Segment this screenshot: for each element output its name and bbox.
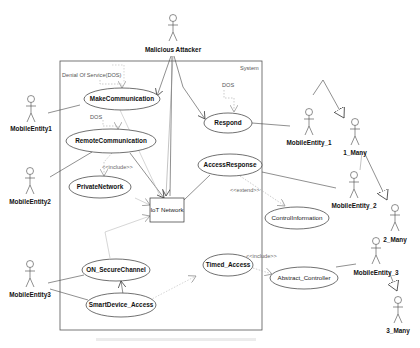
actor-mobile-entity1[interactable]: MobileEntity1 <box>10 96 52 134</box>
svg-text:3_Many: 3_Many <box>386 327 410 335</box>
svg-text:IoT Network: IoT Network <box>150 206 184 213</box>
actor-malicious-attacker[interactable]: Malicious Attacker <box>145 15 202 54</box>
svg-text:2_Many: 2_Many <box>383 236 407 244</box>
include-stereotype-private: <<include>> <box>102 164 133 170</box>
svg-text:MobileEntity2: MobileEntity2 <box>9 198 51 206</box>
use-case-timed-access[interactable]: Timed_Access <box>203 254 253 276</box>
actor-mobile-entity-2[interactable]: MobileEntity_2 <box>331 172 377 211</box>
svg-text:Abstract_Controller: Abstract_Controller <box>278 274 331 281</box>
svg-text:MakeCommunication: MakeCommunication <box>90 95 154 102</box>
system-label: System <box>240 65 259 71</box>
actor-1-many[interactable]: 1_Many <box>343 119 367 158</box>
svg-text:ON_SecureChannel: ON_SecureChannel <box>86 266 146 273</box>
use-case-make-communication[interactable]: MakeCommunication <box>84 88 160 110</box>
use-case-abstract-controller[interactable]: Abstract_Controller <box>270 267 338 289</box>
use-case-private-network[interactable]: PrivateNetwork <box>69 176 131 198</box>
use-case-on-secure-channel[interactable]: ON_SecureChannel <box>82 259 150 281</box>
include-stereotype-abstract: <<include>> <box>246 253 277 259</box>
actor-3-many[interactable]: 3_Many <box>386 297 410 336</box>
svg-text:Malicious Attacker: Malicious Attacker <box>145 46 202 53</box>
svg-text:SmartDevice_Access: SmartDevice_Access <box>89 301 154 308</box>
svg-text:ControlInformation: ControlInformation <box>272 214 323 221</box>
dos-group-note: Denial Of Service(DOS) <box>62 72 122 78</box>
svg-text:PrivateNetwork: PrivateNetwork <box>77 183 124 190</box>
actor-mobile-entity-3[interactable]: MobileEntity_3 <box>353 238 399 278</box>
svg-text:RemoteCommunication: RemoteCommunication <box>75 137 147 144</box>
dos-respond-note: DOS <box>222 82 234 88</box>
svg-text:MobileEntity1: MobileEntity1 <box>10 125 52 133</box>
use-case-control-information[interactable]: ControlInformation <box>265 207 329 229</box>
svg-text:MobileEntity3: MobileEntity3 <box>9 291 51 299</box>
svg-text:Timed_Access: Timed_Access <box>206 261 251 268</box>
actor-2-many[interactable]: 2_Many <box>383 205 407 245</box>
use-case-diagram: System Denial Of Service(DOS) DOS DOS <<… <box>0 0 420 348</box>
actor-mobile-entity-1[interactable]: MobileEntity_1 <box>286 109 332 148</box>
svg-text:AccessResponse: AccessResponse <box>204 161 257 169</box>
use-case-respond[interactable]: Respond <box>204 113 252 133</box>
use-case-smart-device-access[interactable]: SmartDevice_Access <box>86 293 156 317</box>
iot-network-box[interactable]: IoT Network <box>150 198 185 222</box>
use-case-remote-communication[interactable]: RemoteCommunication <box>66 129 156 153</box>
use-case-access-response[interactable]: AccessResponse <box>198 154 262 176</box>
svg-text:MobileEntity_3: MobileEntity_3 <box>353 269 399 277</box>
svg-text:1_Many: 1_Many <box>343 149 367 157</box>
svg-text:MobileEntity_1: MobileEntity_1 <box>286 139 332 147</box>
faint-caption <box>96 338 256 341</box>
dos-remote-note: DOS <box>90 114 102 120</box>
extend-stereotype: <<extend>> <box>230 187 260 193</box>
actor-mobile-entity3[interactable]: MobileEntity3 <box>9 261 51 300</box>
svg-text:MobileEntity_2: MobileEntity_2 <box>331 202 377 210</box>
svg-text:Respond: Respond <box>214 119 241 127</box>
actor-mobile-entity2[interactable]: MobileEntity2 <box>9 168 51 207</box>
